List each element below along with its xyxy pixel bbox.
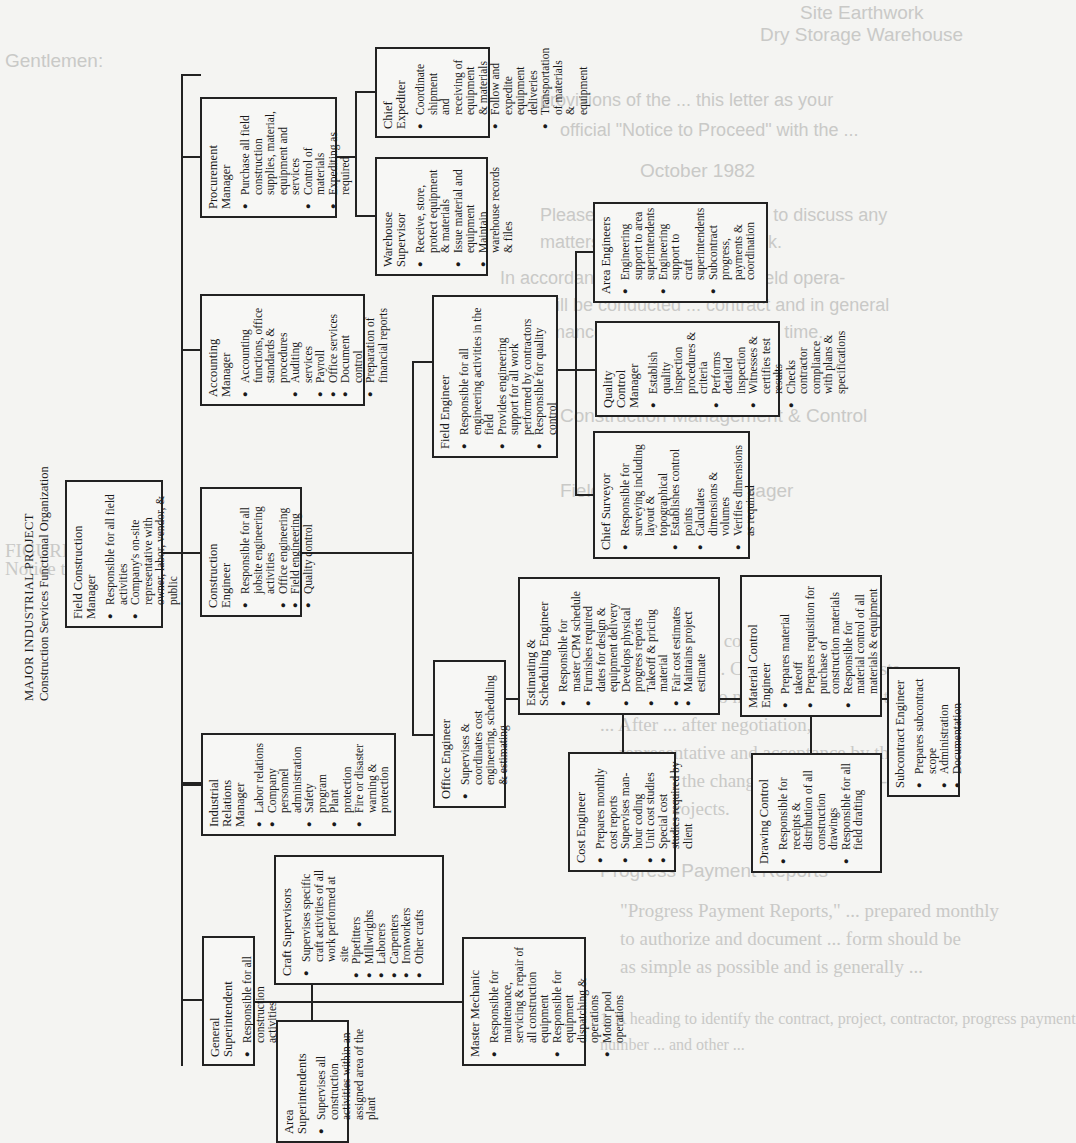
box-title: Chief Expediter	[382, 56, 408, 129]
box-item: Maintains project estimate	[682, 586, 707, 692]
box-title: Master Mechanic	[469, 946, 482, 1057]
box-item: Prepares requisition for purchase of con…	[804, 584, 842, 694]
box-title: Warehouse Supervisor	[382, 166, 408, 267]
box-item: Issue material and equipment	[452, 166, 477, 253]
box-item: Accounting functions, office standards &…	[239, 303, 289, 383]
box-item: Responsible for all field activities	[104, 489, 129, 605]
box-title: Area Engineers	[600, 211, 613, 294]
connector	[810, 717, 812, 753]
connector	[412, 361, 432, 363]
box-title: Office Engineer	[440, 669, 453, 799]
box-item: Responsible for all construction activit…	[241, 945, 279, 1043]
connector	[622, 715, 624, 752]
box-item: Document control	[339, 303, 364, 383]
box-item: Unit cost studies	[644, 761, 657, 849]
connector	[181, 349, 201, 351]
box-title: Drawing Control	[758, 762, 771, 864]
box-title: General Superintendent	[209, 945, 235, 1057]
box-title: Construction Engineer	[207, 496, 233, 608]
box-item: Establishes control points	[669, 440, 694, 536]
connector	[181, 782, 201, 784]
box-item: Payroll	[314, 303, 327, 383]
box-area-superintendents: Area Superintendents Supervises all cons…	[276, 1020, 349, 1143]
box-item: Furnishes required dates for design & eq…	[582, 586, 620, 692]
box-title: Field Construction Manager	[72, 489, 98, 619]
box-item: Follow and expedite equipment deliveries	[489, 56, 539, 115]
box-title: Estimating & Scheduling Engineer	[525, 586, 551, 706]
box-item: Preparation of financial reports	[364, 303, 389, 383]
box-industrial-relations-manager: Industrial Relations Manager Labor relat…	[201, 733, 396, 836]
box-item: Receive, store, protect equipment & mate…	[414, 166, 452, 253]
box-item: Expediting as required	[327, 106, 352, 195]
box-field-engineer: Field Engineer Responsible for all engin…	[432, 295, 558, 458]
box-item: Prepares monthly cost reports	[594, 761, 619, 849]
box-sub-item: Laborers	[375, 864, 388, 964]
box-item: Supervises man-hour coding	[619, 761, 644, 849]
box-item: Performs detailed inspection	[710, 330, 748, 394]
box-item: Witnesses & certifies test results	[747, 330, 785, 394]
box-material-control-engineer: Material Control Engineer Prepares mater…	[740, 575, 882, 717]
box-office-engineer: Office Engineer Supervises & coordinates…	[433, 660, 506, 808]
connector	[355, 91, 357, 217]
box-item: Quality control	[302, 496, 315, 594]
box-item: Takeoff & pricing material	[645, 586, 670, 692]
box-chief-expediter: Chief Expediter Coordinate shipment and …	[375, 47, 490, 138]
box-item: Responsible for equipment dispatching & …	[551, 946, 601, 1043]
box-title: Procurement Manager	[207, 106, 233, 209]
box-master-mechanic: Master Mechanic Responsible for maintena…	[462, 937, 586, 1066]
box-item: Responsible for all field drafting	[840, 762, 865, 850]
connector	[575, 251, 577, 496]
box-item: Company's on-site representative with ow…	[129, 489, 179, 605]
box-item: Responsible for maintenance, servicing &…	[488, 946, 551, 1043]
connector	[575, 251, 593, 253]
chart-title-block: MAJOR INDUSTRIAL PROJECT Construction Se…	[22, 301, 52, 701]
box-title: Cost Engineer	[575, 761, 588, 863]
box-item: Auditing services	[289, 303, 314, 383]
connector	[412, 361, 414, 736]
box-sub-item: Carpenters	[388, 864, 401, 964]
box-general-superintendent: General Superintendent Responsible for a…	[202, 936, 255, 1066]
box-title: Field Engineer	[439, 304, 452, 449]
box-item: Engineering support to craft superintend…	[657, 211, 707, 280]
connector	[181, 74, 201, 76]
connector	[355, 215, 375, 217]
connector	[575, 494, 593, 496]
connector	[181, 74, 183, 158]
connector	[181, 552, 201, 554]
box-item: Provides engineering support for all wor…	[496, 304, 534, 435]
box-item: Prepares material takeoff	[779, 584, 804, 694]
box-item: Maintain warehouse records & files	[477, 166, 515, 253]
box-item: Verifies dimensions as required	[732, 440, 757, 536]
box-drawing-control: Drawing Control Responsible for receipts…	[751, 753, 882, 873]
box-item: Responsible for master CPM schedule	[557, 586, 582, 692]
box-subcontract-engineer: Subcontract Engineer Prepares subcontrac…	[887, 667, 960, 797]
box-item: Office services	[327, 303, 340, 383]
connector	[575, 369, 595, 371]
box-item: Supervises all construction activities w…	[315, 1029, 378, 1120]
box-sub-item: Ironworkers	[400, 864, 413, 964]
connector	[558, 369, 575, 371]
box-accounting-manager: Accounting Manager Accounting functions,…	[200, 294, 365, 406]
chart-title: MAJOR INDUSTRIAL PROJECT	[22, 301, 37, 701]
connector	[311, 985, 313, 1020]
box-item: Establish quality inspection procedures …	[647, 330, 710, 394]
box-cost-engineer: Cost Engineer Prepares monthly cost repo…	[568, 752, 676, 872]
box-item: Calculates dimensions & volumes	[694, 440, 732, 536]
box-item: Fair cost estimates	[670, 586, 683, 692]
box-item: Responsible for all jobsite engineering …	[239, 496, 277, 594]
box-title: Area Superintendents	[283, 1029, 309, 1134]
box-item: Responsible for all engineering activiti…	[458, 304, 496, 435]
connector	[255, 1001, 462, 1003]
box-item: Supervises & coordinates cost engineerin…	[459, 669, 509, 785]
box-item: Administration	[938, 676, 951, 774]
box-area-engineers: Area Engineers Engineering support to ar…	[593, 202, 768, 303]
connector	[181, 156, 201, 158]
box-construction-engineer: Construction Engineer Responsible for al…	[200, 487, 302, 617]
box-item: Fire or disaster warning & protection	[353, 742, 391, 813]
connector	[181, 784, 201, 786]
box-item: Transportation of materials & equipment	[539, 56, 589, 115]
connector	[355, 91, 375, 93]
box-item: Subcontract progress, payments & coordin…	[707, 211, 757, 280]
box-item: Field engineering	[289, 496, 302, 594]
